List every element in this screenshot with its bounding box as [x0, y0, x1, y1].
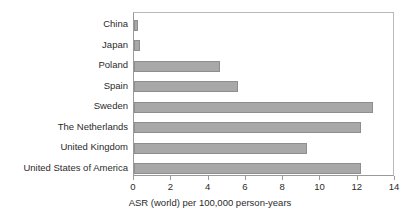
category-label: China	[103, 14, 128, 35]
x-tick-mark	[394, 176, 395, 180]
x-tick-label: 2	[168, 181, 173, 192]
bar-poland	[134, 61, 220, 72]
x-tick-label: 6	[242, 181, 247, 192]
bar-spain	[134, 81, 238, 92]
plot-area	[133, 12, 394, 176]
x-tick-mark	[133, 176, 134, 180]
bar-the-netherlands	[134, 122, 361, 133]
x-tick-mark	[282, 176, 283, 180]
x-tick-label: 12	[351, 181, 362, 192]
x-tick-mark	[357, 176, 358, 180]
category-label: Spain	[104, 76, 128, 97]
bar-row	[134, 138, 393, 159]
x-tick-label: 8	[279, 181, 284, 192]
category-label: The Netherlands	[58, 117, 128, 138]
category-label: Poland	[98, 55, 128, 76]
x-tick-label: 0	[130, 181, 135, 192]
x-tick-label: 4	[205, 181, 210, 192]
bar-row	[134, 15, 393, 36]
x-tick-label: 10	[314, 181, 325, 192]
bar-row	[134, 36, 393, 57]
bar-row	[134, 77, 393, 98]
bar-united-states-of-america	[134, 163, 361, 174]
bar-sweden	[134, 102, 373, 113]
bar-row	[134, 97, 393, 118]
category-label: Japan	[102, 35, 128, 56]
x-tick-mark	[208, 176, 209, 180]
bar-china	[134, 20, 138, 31]
bar-row	[134, 159, 393, 180]
category-label: Sweden	[94, 96, 128, 117]
x-axis-title: ASR (world) per 100,000 person-years	[0, 197, 420, 208]
x-tick-mark	[319, 176, 320, 180]
bar-japan	[134, 40, 140, 51]
category-label: United States of America	[23, 158, 128, 179]
bar-row	[134, 118, 393, 139]
bar-chart: China Japan Poland Spain Sweden The Neth…	[0, 0, 420, 220]
x-tick-label: 14	[389, 181, 400, 192]
bar-united-kingdom	[134, 143, 307, 154]
category-label: United Kingdom	[60, 137, 128, 158]
bar-row	[134, 56, 393, 77]
x-tick-mark	[170, 176, 171, 180]
x-tick-mark	[245, 176, 246, 180]
